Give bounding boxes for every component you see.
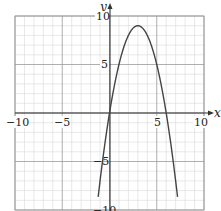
x-tick-10: 10 xyxy=(194,116,208,129)
y-axis-arrow-icon xyxy=(108,3,113,9)
y-tick-10: 10 xyxy=(96,10,110,23)
graph: x y −10 −5 5 10 10 5 −5 −10 xyxy=(0,0,221,211)
y-tick-neg5: −5 xyxy=(93,155,109,168)
x-tick-neg10: −10 xyxy=(6,116,29,129)
y-tick-5: 5 xyxy=(101,58,108,71)
x-tick-5: 5 xyxy=(154,116,161,129)
y-tick-neg10: −10 xyxy=(93,204,116,211)
x-axis-label: x xyxy=(214,106,221,120)
x-tick-neg5: −5 xyxy=(54,116,70,129)
